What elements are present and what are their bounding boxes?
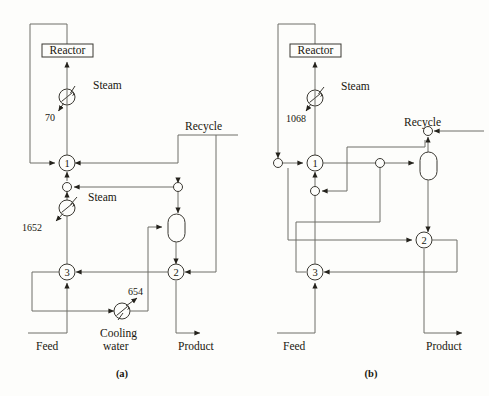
figure-canvas: Reactor Steam 70 1 Recycle bbox=[0, 0, 489, 396]
b-tee-mid bbox=[376, 159, 385, 168]
b-midtee-down-branch bbox=[296, 168, 380, 272]
a-reactor-label: Reactor bbox=[50, 44, 86, 56]
b-steam-top-label: Steam bbox=[341, 80, 370, 92]
b-upper-bypass-line bbox=[347, 147, 410, 191]
a-cooling-water-label-1: Cooling bbox=[100, 327, 137, 340]
b-tee-recycle bbox=[424, 127, 433, 136]
a-right-return-loop bbox=[185, 135, 216, 272]
a-tee-junction-left bbox=[63, 183, 72, 192]
a-tee-junction-right bbox=[174, 183, 183, 192]
b-tee-below-mixer1 bbox=[311, 187, 320, 196]
panel-b: Reactor Steam 1068 1 bbox=[274, 24, 485, 380]
a-feed-label: Feed bbox=[36, 340, 59, 352]
a-cooling-water-label-2: water bbox=[103, 340, 129, 352]
b-duty-top-label: 1068 bbox=[286, 113, 306, 124]
b-unit2-to-splitter3-loop bbox=[324, 240, 457, 272]
a-product-line bbox=[176, 281, 200, 333]
a-steam-lower-label: Steam bbox=[88, 191, 117, 203]
panel-a: Reactor Steam 70 1 Recycle bbox=[22, 24, 238, 380]
b-upper-bypass-to-recycle bbox=[410, 140, 425, 147]
a-feed-line bbox=[28, 283, 67, 333]
b-recycle-label: Recycle bbox=[404, 116, 441, 129]
b-flash-vessel bbox=[420, 152, 437, 180]
b-product-label: Product bbox=[426, 340, 463, 352]
a-cooler-to-vessel-line bbox=[130, 227, 162, 311]
a-recycle-line bbox=[178, 135, 238, 163]
b-product-line bbox=[424, 249, 462, 333]
a-recycle-label: Recycle bbox=[185, 120, 222, 133]
b-splitter-3-label: 3 bbox=[312, 267, 317, 278]
a-steam-top-label: Steam bbox=[93, 79, 122, 91]
a-splitter-3-label: 3 bbox=[64, 267, 69, 278]
a-duty-lower-label: 1652 bbox=[22, 222, 42, 233]
b-unit-2-label: 2 bbox=[421, 235, 426, 246]
a-unit-2-label: 2 bbox=[173, 267, 178, 278]
a-caption: (a) bbox=[116, 368, 129, 380]
pfd-drawing: Reactor Steam 70 1 Recycle bbox=[0, 0, 489, 396]
b-feed-line bbox=[277, 283, 315, 333]
a-product-label: Product bbox=[178, 340, 215, 352]
b-mixer-1-label: 1 bbox=[312, 158, 317, 169]
a-duty-cooler-label: 654 bbox=[128, 286, 143, 297]
a-duty-top-label: 70 bbox=[45, 112, 55, 123]
b-tee-left bbox=[274, 159, 283, 168]
a-flash-vessel bbox=[168, 214, 185, 242]
b-feed-label: Feed bbox=[283, 340, 306, 352]
a-cooler-exchanger bbox=[114, 298, 137, 320]
a-mixer-1-label: 1 bbox=[64, 158, 69, 169]
b-reactor-label: Reactor bbox=[298, 44, 334, 56]
b-caption: (b) bbox=[365, 368, 378, 380]
